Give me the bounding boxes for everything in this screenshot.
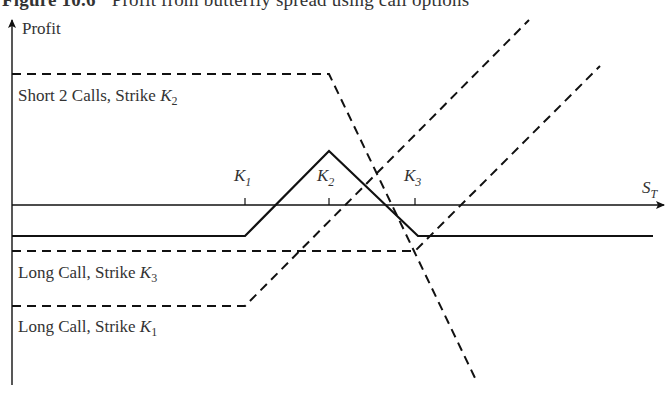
y-axis-label: Profit [22, 19, 61, 38]
payoff-chart: Profit ST K1 K2 K3 Short 2 Calls, Strike… [0, 0, 671, 393]
label-long-call-k3: Long Call, Strike K3 [18, 263, 157, 285]
label-short-2-calls: Short 2 Calls, Strike K2 [18, 86, 178, 108]
strike-label-k3: K3 [403, 166, 421, 189]
strike-label-k1: K1 [233, 166, 251, 189]
x-axis-label: ST [642, 178, 659, 201]
strike-label-k2: K2 [316, 166, 334, 189]
label-long-call-k1: Long Call, Strike K1 [18, 317, 157, 339]
butterfly-profit-line [12, 151, 653, 236]
